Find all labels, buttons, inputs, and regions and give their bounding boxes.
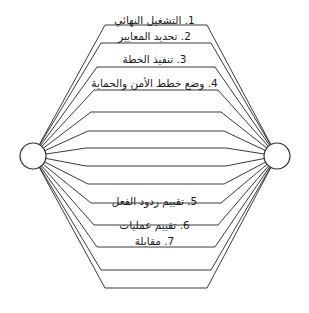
step-label-6: 6. تقييم عمليات xyxy=(0,219,309,231)
step-label-7: 7. مقابلة xyxy=(0,235,309,247)
lens-ring-bottom-ring-7 xyxy=(33,156,277,166)
step-label-3: 3. تنفيذ الخطة xyxy=(0,53,309,65)
lens-ring-bottom-ring-2 xyxy=(33,156,277,270)
left-node-circle[interactable] xyxy=(20,143,46,169)
step-label-5: 5. تقييم ردود الفعل xyxy=(0,195,309,207)
lens-ring-bottom-ring-6 xyxy=(33,156,277,184)
right-node-circle[interactable] xyxy=(264,143,290,169)
step-label-4: 4. وضع خطط الأمن والحماية xyxy=(0,77,309,89)
step-label-1: 1. التشغيل النهائي xyxy=(0,14,309,26)
lens-diagram-svg xyxy=(0,0,309,313)
lens-ring-top-ring-6 xyxy=(33,131,277,156)
step-label-2: 2. تحديد المعايير xyxy=(0,30,309,42)
lens-ring-top-ring-7 xyxy=(33,148,277,156)
lens-ring-top-ring-4 xyxy=(33,90,277,156)
lens-diagram-canvas: 1. التشغيل النهائي 2. تحديد المعايير 3. … xyxy=(0,0,309,313)
lens-ring-top-ring-5 xyxy=(33,112,277,156)
